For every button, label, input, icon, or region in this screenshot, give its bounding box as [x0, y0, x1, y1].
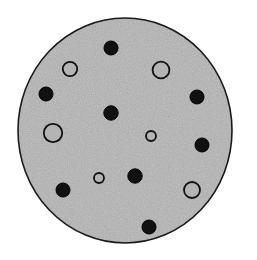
- marker-open-m07: [44, 124, 62, 142]
- marker-filled-m12: [56, 183, 70, 197]
- marker-open-m13: [184, 182, 200, 198]
- marker-open-m10: [94, 173, 104, 183]
- marker-filled-m01: [104, 41, 118, 55]
- marker-filled-m06: [104, 106, 118, 120]
- marker-open-m08: [146, 131, 156, 141]
- disc-diagram: [0, 0, 257, 260]
- marker-open-m03: [153, 62, 170, 79]
- marker-filled-m05: [190, 90, 204, 104]
- marker-open-m02: [63, 62, 77, 76]
- marker-filled-m14: [142, 220, 156, 234]
- marker-filled-m11: [128, 169, 142, 183]
- figure-canvas: [0, 0, 257, 260]
- marker-filled-m09: [195, 138, 209, 152]
- marker-filled-m04: [39, 87, 53, 101]
